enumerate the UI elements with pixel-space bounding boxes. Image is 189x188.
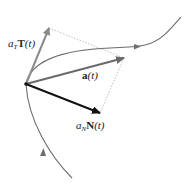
acceleration-arg: (t) [88,69,98,81]
normal-component-vector [26,84,100,113]
acceleration-diagram [0,0,189,188]
motion-curve [26,17,181,178]
tangent-component-label: aTT(t) [8,38,35,51]
dotted-guide-acceleration-to-normal [100,58,124,113]
tangent-arg: (t) [25,37,35,49]
acceleration-label: a(t) [82,70,98,81]
dotted-guide-tangent-to-acceleration [49,28,124,58]
normal-arg: (t) [94,119,104,131]
curve-direction-arrow-lower [40,148,46,156]
tangent-unit-vector: T [17,37,24,49]
base-point [24,82,28,86]
acceleration-vector [26,58,124,84]
curve-direction-arrow-upper [134,44,141,50]
normal-unit-vector: N [86,119,94,131]
normal-component-label: aNN(t) [76,120,105,133]
